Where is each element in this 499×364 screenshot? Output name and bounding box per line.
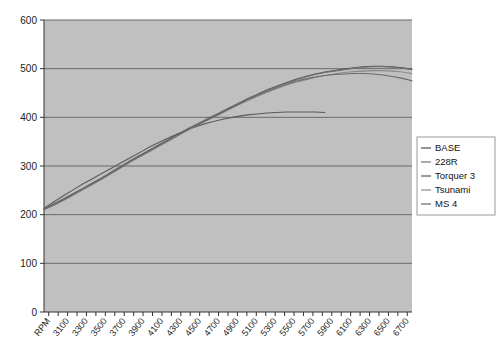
y-tick-label-300: 300 (20, 161, 37, 172)
y-tick-label-600: 600 (20, 15, 37, 26)
legend-label-tsunami[interactable]: Tsunami (435, 184, 470, 195)
y-tick-label-500: 500 (20, 63, 37, 74)
y-tick-label-0: 0 (31, 307, 37, 318)
chart-legend[interactable]: BASE228RTorquer 3TsunamiMS 4 (417, 137, 495, 215)
chart-canvas: 0100200300400500600 RPM31003300350037003… (0, 0, 499, 364)
y-tick-label-100: 100 (20, 258, 37, 269)
y-tick-label-400: 400 (20, 112, 37, 123)
legend-label-base[interactable]: BASE (435, 142, 460, 153)
legend-label-228r[interactable]: 228R (435, 156, 458, 167)
legend-label-ms-4[interactable]: MS 4 (435, 198, 457, 209)
y-tick-label-200: 200 (20, 209, 37, 220)
dyno-chart: 0100200300400500600 RPM31003300350037003… (0, 0, 499, 364)
legend-label-torquer-3[interactable]: Torquer 3 (435, 170, 475, 181)
